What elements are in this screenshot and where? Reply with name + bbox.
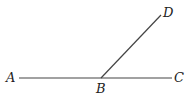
- angle-diagram: A B C D: [0, 0, 187, 96]
- point-label-a: A: [5, 70, 15, 85]
- point-label-c: C: [174, 70, 184, 85]
- point-label-d: D: [162, 5, 174, 20]
- point-label-b: B: [95, 81, 106, 96]
- segment-bd: [101, 15, 161, 78]
